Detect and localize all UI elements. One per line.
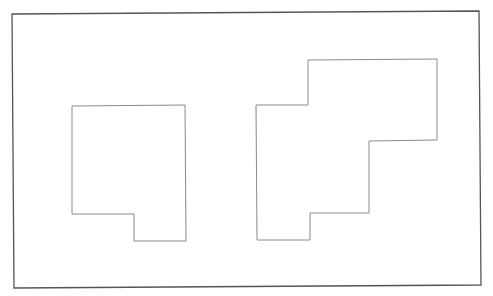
diagram-canvas — [0, 0, 493, 296]
background — [0, 0, 493, 296]
